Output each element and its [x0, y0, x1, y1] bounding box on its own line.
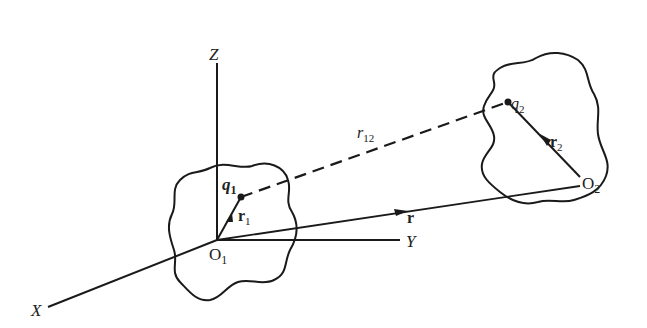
vector-r1-letter: r [238, 207, 245, 224]
vector-r12-dashed-line [241, 102, 508, 197]
charge-q2-subscript: 2 [519, 103, 525, 115]
origin-o2-subscript: 2 [594, 182, 600, 196]
origin-o2-letter: O [582, 174, 594, 193]
z-axis-label: Z [209, 45, 219, 64]
origin-o1-label: O1 [209, 245, 227, 267]
origin-o1-letter: O [209, 245, 221, 264]
origin-o1-subscript: 1 [221, 253, 227, 267]
charge-q1-subscript: 1 [231, 183, 237, 197]
charge-q1-point [238, 194, 245, 201]
vector-r1-arrow-icon [226, 213, 233, 222]
x-axis [48, 240, 217, 307]
vector-r2-label: r2 [550, 133, 563, 153]
vector-r12-label: r12 [357, 124, 374, 144]
vector-r12-subscript: 12 [363, 132, 374, 144]
vector-r1-label: r1 [238, 207, 251, 227]
vector-r2-letter: r [550, 133, 557, 150]
y-axis-label: Y [406, 232, 417, 251]
vector-r1-subscript: 1 [245, 215, 251, 227]
x-axis-label: X [30, 301, 42, 320]
vector-r2-subscript: 2 [557, 141, 563, 153]
origin-o2-label: O2 [582, 174, 600, 196]
charge-q1-label: q1 [222, 175, 237, 197]
charge-q2-letter: q [511, 95, 519, 113]
vector-r-label: r [407, 209, 414, 226]
charge-distribution-diagram: Z Y X O1 O2 q1 q2 r1 r2 r r12 [0, 0, 647, 328]
